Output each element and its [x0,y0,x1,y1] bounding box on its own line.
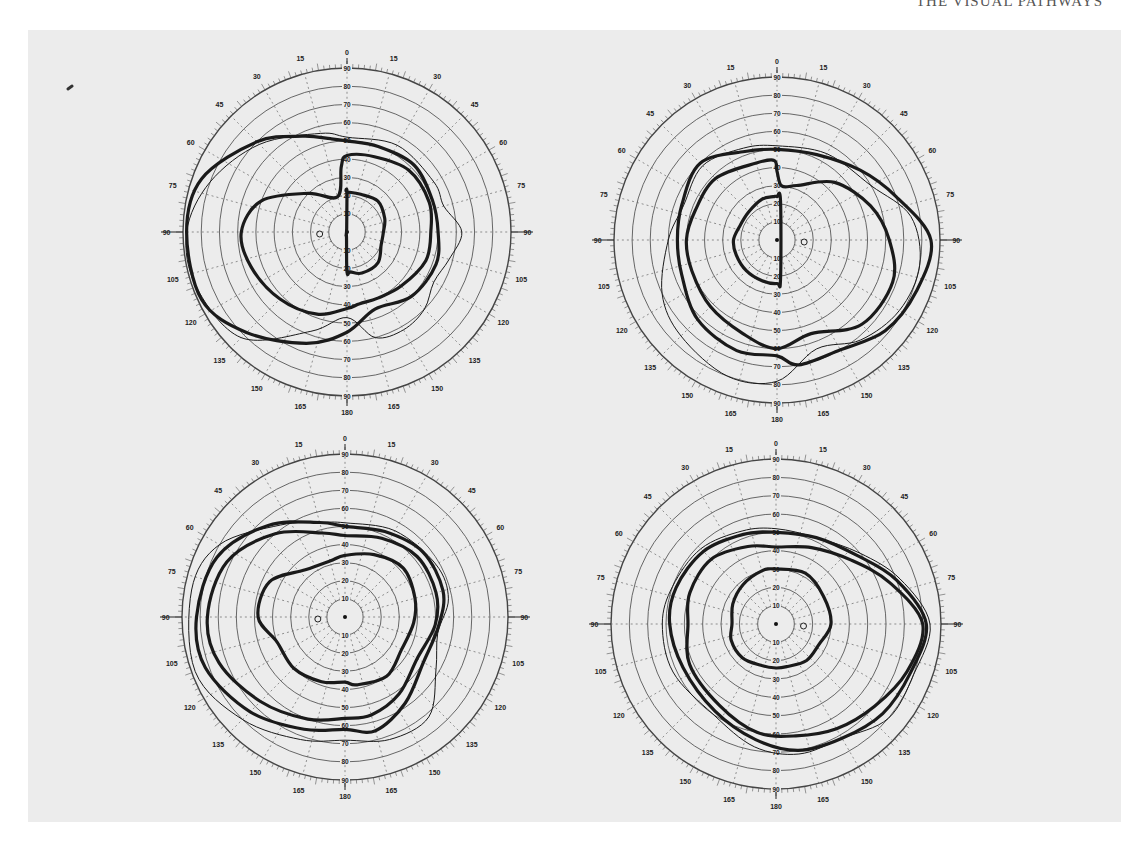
isopter-line [258,554,416,685]
radial-label: 60 [343,119,351,126]
angle-label: 30 [253,73,261,80]
angle-label: 90 [591,621,599,628]
radial-label: 80 [772,474,780,481]
radial-label: 80 [341,758,349,765]
angle-label: 60 [499,139,507,146]
radial-label: 40 [772,694,780,701]
angle-label: 150 [682,392,694,399]
angle-label: 60 [618,147,626,154]
angle-label: 15 [390,55,398,62]
angle-label: 120 [497,319,509,326]
angle-label: 105 [945,668,957,675]
angle-label: 15 [727,64,735,71]
angle-label: 0 [343,435,347,442]
angle-label: 90 [952,237,960,244]
radial-label: 70 [772,749,780,756]
angle-label: 45 [471,101,479,108]
angle-label: 0 [345,49,349,56]
angle-label: 150 [250,769,262,776]
angle-label: 150 [251,385,263,392]
angle-label: 15 [388,441,396,448]
angle-label: 75 [947,574,955,581]
radial-label: 70 [343,356,351,363]
radial-label: 70 [773,363,781,370]
visual-field-chart-top-right: 0153045607590105120135150165180165150135… [592,58,962,424]
angle-label: 120 [616,327,628,334]
angle-label: 75 [168,568,176,575]
angle-label: 15 [295,441,303,448]
radial-label: 70 [772,492,780,499]
angle-label: 30 [863,464,871,471]
isopter-line [669,532,926,751]
isopter-line [207,531,438,720]
radial-label: 90 [341,777,349,784]
angle-label: 0 [775,58,779,65]
radial-label: 20 [772,657,780,664]
angle-label: 135 [469,357,481,364]
angle-label: 90 [162,614,170,621]
visual-field-chart-top-left: 0153045607590105120135150165180165150135… [161,49,533,417]
radial-label: 90 [341,451,349,458]
fixation-point [775,238,779,242]
angle-label: 0 [774,440,778,447]
angle-label: 120 [927,712,939,719]
radial-label: 90 [772,786,780,793]
radial-label: 50 [343,320,351,327]
angle-label: 30 [433,73,441,80]
angle-label: 60 [615,530,623,537]
radial-label: 80 [773,92,781,99]
angle-label: 75 [514,568,522,575]
radial-label: 30 [343,283,351,290]
radial-label: 70 [341,740,349,747]
radial-label: 80 [341,469,349,476]
angle-label: 165 [725,410,737,417]
angle-label: 90 [524,229,532,236]
angle-label: 15 [725,446,733,453]
angle-label: 30 [431,459,439,466]
blind-spot-marker [317,231,323,237]
radial-label: 10 [772,639,780,646]
angle-label: 135 [642,749,654,756]
angle-label: 135 [898,364,910,371]
angle-label: 120 [185,319,197,326]
angle-label: 30 [681,464,689,471]
angle-label: 45 [646,110,654,117]
radial-label: 50 [773,327,781,334]
angle-label: 45 [214,487,222,494]
radial-label: 90 [343,393,351,400]
angle-label: 180 [770,803,782,810]
angle-label: 165 [818,410,830,417]
angle-label: 45 [900,110,908,117]
angle-label: 165 [294,403,306,410]
radial-label: 70 [773,110,781,117]
radial-label: 90 [772,456,780,463]
angle-label: 105 [512,660,524,667]
visual-field-chart-bottom-left: 0153045607590105120135150165180165150135… [160,435,530,801]
angle-label: 75 [597,574,605,581]
angle-label: 135 [898,749,910,756]
radial-label: 70 [341,487,349,494]
angle-label: 75 [600,191,608,198]
isopter-line [686,160,894,349]
angle-label: 90 [954,621,962,628]
angle-label: 135 [212,741,224,748]
radial-label: 40 [341,686,349,693]
radial-label: 30 [341,559,349,566]
angle-label: 165 [388,403,400,410]
radial-label: 40 [773,309,781,316]
angle-label: 150 [431,385,443,392]
angle-label: 60 [929,530,937,537]
angle-label: 60 [928,147,936,154]
radial-label: 20 [341,577,349,584]
angle-label: 45 [900,493,908,500]
radial-label: 80 [343,374,351,381]
angle-label: 180 [771,416,783,423]
angle-label: 105 [598,283,610,290]
fixation-point [774,622,778,626]
angle-label: 165 [386,787,398,794]
radial-label: 90 [343,65,351,72]
radial-label: 30 [772,676,780,683]
angle-label: 45 [216,101,224,108]
blind-spot-marker [315,616,321,622]
radial-label: 90 [773,400,781,407]
